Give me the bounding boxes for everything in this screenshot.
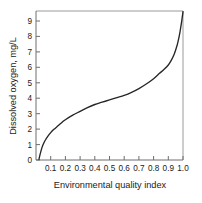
y-tick-label: 6 (27, 63, 32, 72)
x-tick-label: 0.6 (119, 164, 131, 173)
x-tick-label: 0.3 (74, 164, 86, 173)
y-axis-title: Dissolved oxygen, mg/L (8, 37, 18, 135)
y-tick-label: 1 (27, 141, 32, 150)
x-tick-label: 0.8 (148, 164, 160, 173)
y-tick-label: 4 (27, 94, 32, 103)
y-tick-label: 3 (27, 110, 32, 119)
x-tick-label: 0.7 (133, 164, 145, 173)
x-tick-label: 0.4 (89, 164, 101, 173)
chart-canvas: 0 1 2 3 4 5 6 7 8 9 0.1 0.2 (0, 0, 202, 203)
y-tick-label: 0 (27, 156, 32, 165)
x-tick-label: 0.5 (104, 164, 116, 173)
x-tick-label: 1.0 (177, 164, 189, 173)
x-axis-title: Environmental quality index (54, 180, 167, 190)
x-tick-label: 0.2 (60, 164, 72, 173)
x-tick-label: 0.1 (45, 164, 57, 173)
y-tick-label: 5 (27, 79, 32, 88)
y-tick-label: 7 (27, 48, 32, 57)
y-tick-label: 2 (27, 125, 32, 134)
chart-figure: 0 1 2 3 4 5 6 7 8 9 0.1 0.2 (0, 0, 202, 203)
y-tick-label: 8 (27, 32, 32, 41)
y-tick-label: 9 (27, 17, 32, 26)
x-tick-label: 0.9 (163, 164, 175, 173)
